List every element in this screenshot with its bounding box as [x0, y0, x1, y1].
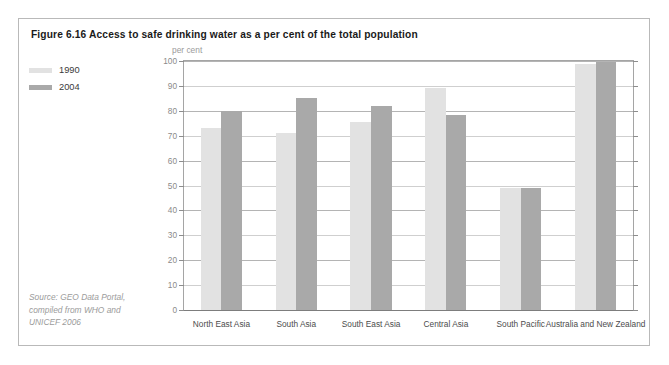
legend-swatch-icon	[29, 68, 52, 73]
y-axis-tick-right	[633, 86, 638, 87]
figure-frame: Figure 6.16 Access to safe drinking wate…	[18, 18, 650, 346]
y-axis-tick	[179, 310, 184, 311]
x-axis-category-label: South East Asia	[342, 319, 401, 329]
x-axis-category-label: Australia and New Zealand	[546, 319, 646, 329]
bar-2004	[596, 62, 617, 310]
y-axis-tick-right	[633, 310, 638, 311]
x-axis-category-label: Central Asia	[424, 319, 469, 329]
legend-item-2004: 2004	[29, 80, 139, 95]
bar-2004	[221, 111, 242, 310]
bar-1990	[201, 128, 222, 310]
chart-legend: 19902004	[29, 63, 139, 97]
legend-label: 2004	[59, 83, 80, 92]
y-axis-tick-label: 70	[168, 131, 177, 141]
bar-2004	[371, 106, 392, 310]
y-axis-tick-label: 20	[168, 255, 177, 265]
bar-group: South Pacific	[483, 61, 558, 310]
x-axis-category-label: North East Asia	[193, 319, 250, 329]
y-axis-tick-label: 90	[168, 81, 177, 91]
y-axis-tick-label: 100	[163, 56, 177, 66]
bar-2004	[446, 115, 467, 310]
x-axis-category-label: South Asia	[276, 319, 316, 329]
y-axis-tick-right	[633, 210, 638, 211]
y-axis-tick-label: 80	[168, 106, 177, 116]
y-axis-tick-right	[633, 61, 638, 62]
y-axis-tick-right	[633, 111, 638, 112]
y-axis-tick-label: 60	[168, 156, 177, 166]
legend-label: 1990	[59, 66, 80, 75]
plot-wrapper: per cent 1009080706050403020100North Eas…	[152, 45, 642, 341]
legend-swatch-icon	[29, 85, 52, 90]
y-axis-tick-label: 0	[172, 305, 177, 315]
plot-area: 1009080706050403020100North East AsiaSou…	[183, 60, 634, 311]
y-axis-tick-right	[633, 186, 638, 187]
y-axis-tick-label: 40	[168, 205, 177, 215]
y-axis-unit-label: per cent	[172, 45, 202, 55]
y-axis-tick-label: 50	[168, 181, 177, 191]
bar-group: Central Asia	[409, 61, 484, 310]
bar-group: Australia and New Zealand	[558, 61, 633, 310]
bar-group: South East Asia	[334, 61, 409, 310]
bar-2004	[296, 98, 317, 310]
y-axis-tick-label: 30	[168, 230, 177, 240]
y-axis-tick-label: 10	[168, 280, 177, 290]
y-axis-tick-right	[633, 260, 638, 261]
bar-1990	[500, 188, 521, 310]
bar-1990	[575, 64, 596, 311]
bar-group: North East Asia	[184, 61, 259, 310]
legend-item-1990: 1990	[29, 63, 139, 78]
y-axis-tick-right	[633, 285, 638, 286]
bar-1990	[276, 133, 297, 310]
bar-group: South Asia	[259, 61, 334, 310]
y-axis-tick-right	[633, 235, 638, 236]
source-note: Source: GEO Data Portal, compiled from W…	[29, 291, 151, 328]
y-axis-tick-right	[633, 136, 638, 137]
y-axis-tick-right	[633, 161, 638, 162]
bar-2004	[521, 188, 542, 310]
figure-title: Figure 6.16 Access to safe drinking wate…	[31, 29, 418, 40]
bar-1990	[425, 88, 446, 310]
x-axis-category-label: South Pacific	[497, 319, 545, 329]
bar-1990	[350, 122, 371, 310]
